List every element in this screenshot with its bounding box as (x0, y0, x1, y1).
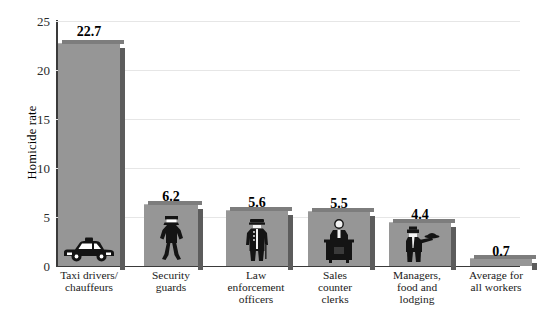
category-label-sales-counter-clerks: Sales counter clerks (300, 270, 370, 305)
bar-value-taxi-drivers: 22.7 (58, 25, 120, 39)
y-tick-0: 0 (26, 260, 50, 273)
security-guard-icon (155, 215, 187, 263)
gridline-10 (56, 168, 520, 169)
category-label-line: chauffeurs (50, 282, 128, 294)
counter-clerk-icon (322, 219, 356, 263)
gridline-25 (56, 21, 520, 22)
y-tick-25: 25 (26, 15, 50, 28)
category-label-line: clerks (300, 294, 370, 306)
bar-security-guards[interactable] (144, 204, 198, 266)
waiter-icon (400, 226, 440, 263)
bar-value-security-guards: 6.2 (144, 190, 198, 204)
taxi-cab-icon (62, 237, 116, 263)
category-label-security-guards: Security guards (136, 270, 206, 294)
gridline-20 (56, 70, 520, 71)
category-label-law-enforcement-officers: Law enforcement officers (216, 270, 296, 305)
bar-managers-food-lodging[interactable] (389, 222, 451, 266)
gridline-15 (56, 119, 520, 120)
bar-value-sales-counter-clerks: 5.5 (308, 197, 370, 211)
category-label-line: all workers (456, 282, 536, 294)
category-label-line: enforcement (216, 282, 296, 294)
category-label-line: counter (300, 282, 370, 294)
category-label-line: lodging (378, 294, 456, 306)
category-label-taxi-drivers: Taxi drivers/ chauffeurs (50, 270, 128, 294)
category-label-line: guards (136, 282, 206, 294)
category-label-line: officers (216, 294, 296, 306)
bar-average-all-workers[interactable] (470, 258, 532, 266)
category-label-average-all-workers: Average for all workers (456, 270, 536, 294)
bar-value-law-enforcement-officers: 5.6 (226, 196, 288, 210)
police-officer-icon (241, 218, 273, 263)
category-label-managers-food-lodging: Managers, food and lodging (378, 270, 456, 305)
plot-area: 22.7 6.2 (56, 21, 520, 266)
bar-value-managers-food-lodging: 4.4 (389, 208, 451, 222)
y-axis-title: Homicide rate (25, 43, 40, 243)
category-label-line: food and (378, 282, 456, 294)
bar-sales-counter-clerks[interactable] (308, 211, 370, 266)
bar-law-enforcement-officers[interactable] (226, 210, 288, 266)
bar-value-average-all-workers: 0.7 (470, 245, 532, 259)
bar-taxi-drivers[interactable] (58, 43, 120, 267)
